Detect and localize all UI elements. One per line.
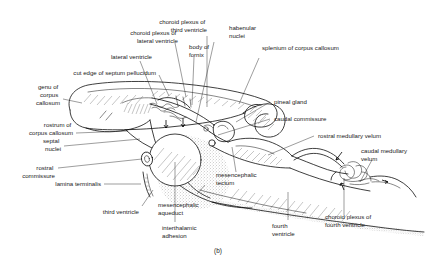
label-lateral-ventricle: lateral ventricle [111,53,153,60]
label-lamina-terminalis: lamina terminalis [55,180,101,187]
label-rostral-medullary-velum: rostral medullary velum [318,132,381,139]
label-third-ventricle: third ventricle [103,208,140,215]
figure-caption: (b) [214,247,222,255]
anatomical-figure: choroid plexus of third ventricle habenu… [0,0,431,275]
label-cut-edge-septum-pellucidum: cut edge of septum pellucidum [73,69,156,76]
label-septal-nuclei: septal nuclei [43,137,61,152]
label-splenium-corpus-callosum: splenium of corpus callosum [262,44,339,51]
label-pineal-gland: pineal gland [274,98,307,105]
label-caudal-commissure: caudal commissure [274,115,327,122]
label-genu-corpus-callosum: genu of corpus callosum [36,83,60,106]
label-choroid-plexus-lateral-ventricle: choroid plexus of lateral ventricle [130,29,178,44]
